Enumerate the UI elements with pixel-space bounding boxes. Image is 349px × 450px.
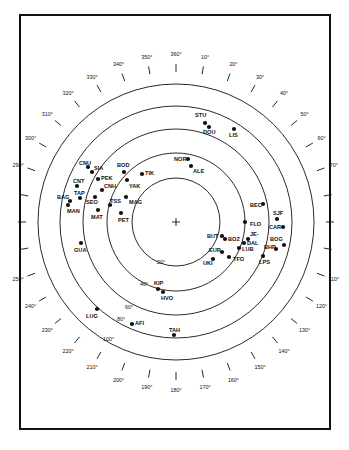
azimuth-tick <box>74 101 79 107</box>
station-boz: BOZ <box>223 236 240 242</box>
station-dot-icon <box>237 246 241 250</box>
station-code: TIK <box>145 170 154 176</box>
azimuth-tick <box>227 74 230 82</box>
station-code: UKI <box>203 260 213 266</box>
azimuth-label: 160° <box>228 377 239 383</box>
station-code: BAG <box>57 194 69 200</box>
azimuth-label: 290° <box>13 162 24 168</box>
station-code: CNH <box>104 183 116 189</box>
ring-label: 20° <box>157 259 165 265</box>
station-code: PEK <box>101 175 113 181</box>
azimuth-label: 10° <box>201 54 209 60</box>
azimuth-label: 220° <box>62 348 73 354</box>
azimuth-label: 250° <box>13 276 24 282</box>
station-dot-icon <box>282 243 286 247</box>
azimuth-tick <box>317 273 325 276</box>
station-ale: ALE <box>189 164 205 174</box>
station-uki: UKI <box>203 257 215 266</box>
station-code: CNU <box>79 160 91 166</box>
azimuth-label: 300° <box>25 135 36 141</box>
station-dot-icon <box>96 208 100 212</box>
azimuth-tick <box>251 85 255 92</box>
station-dot-icon <box>78 196 82 200</box>
station-nor: NOR <box>174 156 190 162</box>
azimuth-label: 240° <box>25 303 36 309</box>
azimuth-label: 310° <box>42 111 53 117</box>
station-dot-icon <box>275 217 279 221</box>
azimuth-tick <box>227 363 230 371</box>
azimuth-tick <box>97 352 101 359</box>
station-dot-icon <box>130 322 134 326</box>
azimuth-label: 230° <box>42 327 53 333</box>
azimuth-tick <box>306 297 313 301</box>
station-code: CNT <box>73 178 85 184</box>
station-dot-icon <box>96 177 100 181</box>
ring-label: 40° <box>140 281 148 287</box>
station-dot-icon <box>261 254 265 258</box>
station-dot-icon <box>161 290 165 294</box>
station-yak: YAK <box>125 178 140 189</box>
azimuth-label: 60° <box>317 135 325 141</box>
station-code: AFI <box>135 320 144 326</box>
azimuth-tick <box>324 195 332 196</box>
station-dot-icon <box>122 170 126 174</box>
station-gua: GUA <box>74 241 86 253</box>
station-code: MAT <box>91 214 103 220</box>
azimuth-label: 40° <box>280 90 288 96</box>
azimuth-tick <box>97 85 101 92</box>
station-code: MAN <box>67 208 80 214</box>
station-dot-icon <box>227 255 231 259</box>
azimuth-tick <box>74 337 79 343</box>
station-code: LUG <box>86 313 98 319</box>
station-sjf: SJF <box>273 210 284 221</box>
station-code: BUT <box>207 233 219 239</box>
station-code: TFO <box>233 256 245 262</box>
station-code: KIP <box>154 280 164 286</box>
station-code: TAH <box>169 327 180 333</box>
station-dot-icon <box>223 237 227 241</box>
station-code: STU <box>195 112 206 118</box>
station-code: TAP <box>74 190 85 196</box>
azimuth-tick <box>28 273 36 276</box>
station-dot-icon <box>203 121 207 125</box>
station-code: LPS <box>259 259 270 265</box>
station-car: CAR <box>269 224 285 230</box>
station-bhp: BHP <box>264 244 278 251</box>
station-mat: MAT <box>91 208 103 220</box>
station-code: FLO <box>250 221 262 227</box>
azimuth-tick <box>39 143 46 147</box>
station-code: NOR <box>174 156 186 162</box>
azimuth-tick <box>324 248 332 249</box>
station-dot-icon <box>124 195 128 199</box>
azimuth-tick <box>202 370 203 378</box>
station-code: JE- <box>250 231 259 237</box>
station-code: DOU <box>203 129 215 135</box>
station-dot-icon <box>281 225 285 229</box>
station-code: EUR <box>209 247 221 253</box>
station-code: BEC <box>250 202 262 208</box>
station-code: LUB <box>242 246 254 252</box>
station-code: CAR <box>269 224 281 230</box>
azimuth-tick <box>272 101 277 107</box>
ring-label: 100° <box>103 336 114 342</box>
station-tfo: TFO <box>227 255 245 262</box>
station-code: SIA <box>94 165 103 171</box>
azimuth-tick <box>20 248 28 249</box>
station-code: LIS <box>229 132 238 138</box>
station-code: SJF <box>273 210 284 216</box>
azimuth-tick <box>55 318 61 323</box>
station-bag: BAG <box>57 194 72 203</box>
azimuth-label: 340° <box>113 61 124 67</box>
station-lis: LIS <box>229 127 238 138</box>
azimuth-tick <box>28 168 36 171</box>
station-bec: BEC <box>250 202 265 208</box>
azimuth-label: 330° <box>86 74 97 80</box>
station-code: SEO <box>86 199 98 205</box>
station-code: PET <box>118 217 129 223</box>
station-dot-icon <box>242 241 246 245</box>
azimuth-label: 180° <box>170 387 181 393</box>
azimuth-tick <box>251 352 255 359</box>
station-code: GUA <box>74 247 86 253</box>
azimuth-label: 320° <box>62 90 73 96</box>
station-cnt: CNT <box>73 178 85 188</box>
